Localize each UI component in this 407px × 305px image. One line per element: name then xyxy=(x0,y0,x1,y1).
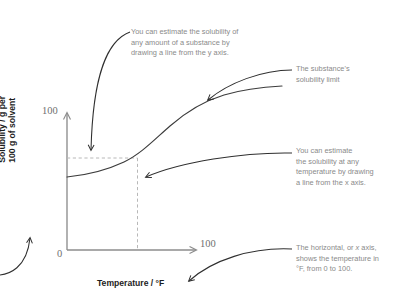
leader-arrow-y-axis-title xyxy=(0,238,30,275)
x-axis-title: Temperature / °F xyxy=(97,278,164,288)
leader-arrow-y-axis-estimate xyxy=(91,32,130,150)
leader-arrow-x-axis-estimate xyxy=(146,153,292,177)
y-axis-title-line2: 100 g of solvent xyxy=(8,98,18,163)
annotation-solubility-limit: The substance's solubility limit xyxy=(296,64,401,85)
y-axis-origin-label: 0 xyxy=(57,248,62,259)
solubility-curve xyxy=(67,86,282,177)
x-axis-max-label: 100 xyxy=(200,238,216,249)
y-axis-title: Solubility / g per100 g of solvent xyxy=(0,73,18,163)
y-axis-max-label: 100 xyxy=(42,105,58,116)
annotation-y-axis-estimate: You can estimate the solubility of any a… xyxy=(131,27,291,59)
annotation-x-axis-estimate: You can estimate the solubility at any t… xyxy=(296,146,402,188)
leader-arrow-x-axis-description xyxy=(189,249,292,281)
y-axis-title-line1: Solubility / g per xyxy=(0,96,7,163)
figure-canvas: 100 0 100 Solubility / g per100 g of sol… xyxy=(0,0,407,305)
annotation-x-axis-description: The horizontal, or x axis, shows the tem… xyxy=(296,243,402,275)
annotation-x-axis-description-before: The horizontal, or xyxy=(296,243,356,252)
